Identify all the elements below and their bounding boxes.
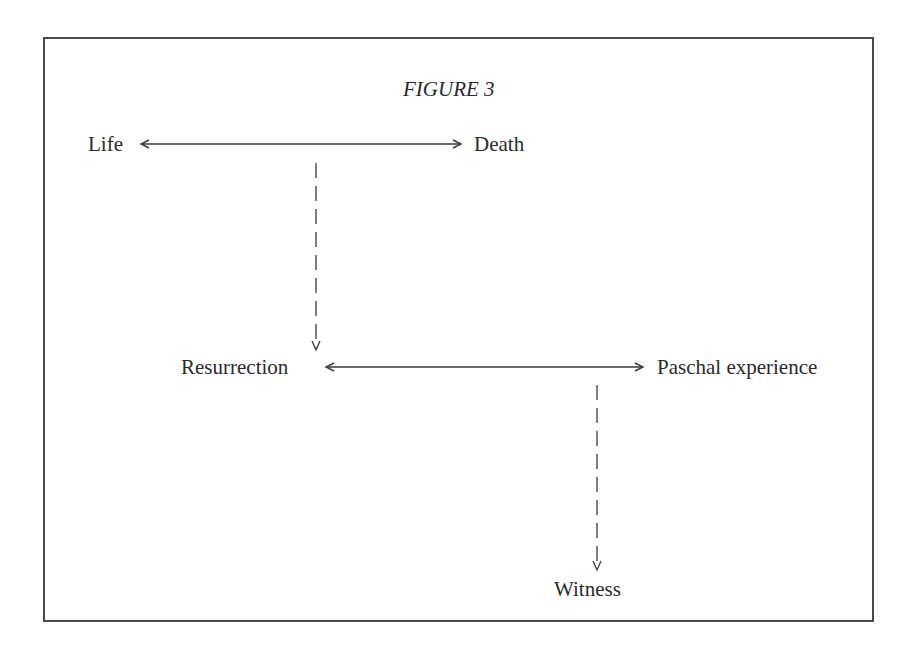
figure-frame bbox=[43, 37, 874, 622]
node-life: Life bbox=[88, 134, 123, 155]
node-death: Death bbox=[474, 134, 524, 155]
node-witness: Witness bbox=[554, 579, 621, 600]
node-resurrection: Resurrection bbox=[181, 357, 288, 378]
node-paschal-experience: Paschal experience bbox=[657, 357, 817, 378]
figure-title: FIGURE 3 bbox=[403, 79, 495, 100]
